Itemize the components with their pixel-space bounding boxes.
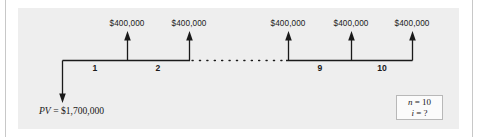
cash-flow-label-5: $400,000 [395,19,430,28]
period-label-10: 10 [377,63,387,73]
cash-flow-label-2: $400,000 [172,19,207,28]
cash-flow-label-4: $400,000 [334,19,369,28]
inflow-arrow-head-3 [285,31,292,41]
inflow-arrow-head-2 [186,31,193,41]
pv-amount: $1,700,000 [61,105,104,116]
period-label-2: 2 [156,63,161,73]
inflow-arrow-head-4 [348,31,355,41]
parameter-line-i: i = ? [411,108,427,118]
period-label-1: 1 [93,63,98,73]
cash-flow-label-1: $400,000 [110,19,145,28]
pv-symbol: PV [39,105,51,116]
inflow-arrow-head-1 [124,31,131,41]
pv-arrow-head [59,94,66,104]
present-value-label: PV = $1,700,000 [39,105,104,116]
parameters-box: n = 10 i = ? [396,95,443,120]
period-label-9: 9 [318,63,323,73]
parameter-value-n: 10 [422,97,431,107]
parameter-line-n: n = 10 [408,97,431,107]
parameter-value-i: ? [424,108,428,118]
cash-flow-label-3: $400,000 [271,19,306,28]
inflow-arrow-head-5 [409,31,416,41]
